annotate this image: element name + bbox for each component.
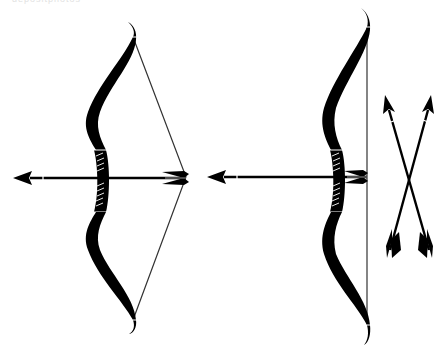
arrow-icon: [386, 95, 434, 258]
strung-bow-icon: [207, 8, 371, 345]
crossed-arrows-icon: [383, 95, 434, 258]
drawn-bow-icon: [13, 22, 189, 334]
illustration: [0, 0, 442, 349]
